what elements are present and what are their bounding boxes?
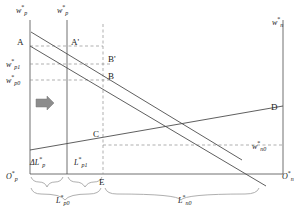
origin-left-label: O*p: [6, 170, 18, 182]
diagram-canvas: w*p w*p w*n w*p1 w*p0 w*n0 A A' B' B C D…: [0, 0, 296, 212]
wage-n0-label: w*n0: [252, 140, 266, 152]
point-label-A-prime: A': [71, 38, 79, 47]
left-axis-top-label: w*p: [16, 4, 27, 16]
bracket-label-Ln0: L*n0: [178, 194, 191, 206]
origin-right-label: O*n: [282, 170, 294, 182]
demand-curve-initial: [30, 46, 266, 186]
bracket-label-Lp1: L*p1: [74, 156, 87, 168]
demand-curve-shifted: [31, 32, 242, 160]
wage-p0-label: w*p0: [6, 74, 20, 86]
bracket-label-Lp0: L*p0: [56, 194, 69, 206]
bracket-delta-Lp: [31, 177, 63, 187]
diagram-svg: [0, 0, 296, 212]
foreign-supply-curve: [30, 106, 283, 150]
point-label-B-prime: B': [108, 55, 116, 64]
right-arrow-icon: [36, 96, 54, 110]
point-label-D: D: [271, 103, 278, 112]
point-label-A: A: [17, 38, 24, 47]
wage-p1-label: w*p1: [6, 58, 20, 70]
point-label-E: E: [99, 178, 105, 187]
bracket-label-delta-Lp: ΔL*p: [30, 156, 45, 168]
point-label-B: B: [108, 72, 114, 81]
inner-axis-top-label: w*p: [57, 4, 68, 16]
bracket-Lp1: [68, 177, 102, 187]
right-axis-top-label: w*n: [272, 16, 283, 28]
point-label-C: C: [93, 130, 99, 139]
